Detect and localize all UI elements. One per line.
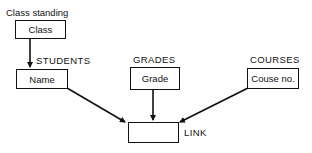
name-field: Name (29, 74, 54, 85)
students-box: Name (16, 69, 68, 89)
link-box (128, 122, 179, 143)
courses-box: Couse no. (247, 68, 299, 89)
class-box: Class (15, 20, 66, 39)
class-field: Class (29, 24, 53, 35)
class-standing-label: Class standing (6, 7, 68, 18)
grades-box: Grade (130, 67, 180, 90)
students-label: STUDENTS (36, 55, 90, 66)
edge-courses-to-link (180, 88, 248, 122)
link-label: LINK (184, 127, 207, 138)
grades-label: GRADES (133, 54, 176, 65)
courses-label: COURSES (250, 54, 300, 65)
edge-students-to-link (67, 88, 125, 122)
course-no-field: Couse no. (251, 73, 294, 84)
grade-field: Grade (142, 73, 168, 84)
